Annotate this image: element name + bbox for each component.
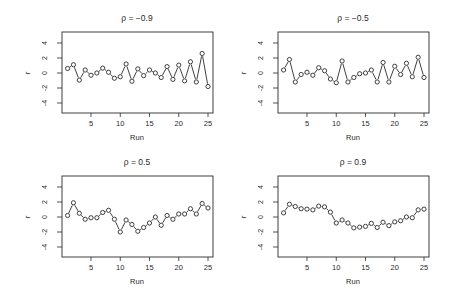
y-axis-label: r — [239, 71, 248, 74]
x-tick-label: 5 — [89, 119, 93, 128]
series-line-segment — [163, 218, 166, 223]
data-point-marker — [165, 213, 169, 217]
series-line-segment — [343, 64, 347, 80]
x-tick-label: 15 — [361, 119, 369, 128]
series-line-segment — [315, 70, 317, 73]
x-tick-label: 15 — [361, 263, 369, 272]
data-point-marker — [130, 222, 134, 226]
x-tick-label: 10 — [116, 263, 124, 272]
data-point-marker — [381, 220, 385, 224]
y-tick-label: -4 — [41, 100, 48, 106]
series-line-segment — [157, 219, 160, 223]
y-tick-label: -2 — [257, 85, 264, 91]
series-line-segment — [81, 215, 83, 217]
data-point-marker — [159, 223, 163, 227]
data-point-marker — [77, 78, 81, 82]
data-point-marker — [183, 79, 187, 83]
series-line-segment — [151, 219, 153, 221]
series-line-segment — [285, 62, 288, 68]
y-axis-label: r — [239, 215, 248, 218]
series-line-segment — [390, 69, 394, 80]
chart-title: ρ = −0.9 — [121, 13, 153, 23]
y-tick-label: -4 — [257, 100, 264, 106]
data-point-marker — [328, 210, 332, 214]
data-point-marker — [147, 221, 151, 225]
x-tick-label: 25 — [420, 263, 428, 272]
data-point-marker — [416, 208, 420, 212]
data-point-marker — [293, 80, 297, 84]
data-point-marker — [299, 72, 303, 76]
plot-frame — [62, 176, 213, 257]
y-tick-label: 2 — [257, 200, 264, 204]
data-point-marker — [340, 59, 344, 63]
series-line-segment — [408, 66, 412, 74]
x-tick-label: 10 — [116, 119, 124, 128]
series-line-segment — [384, 65, 388, 79]
panel-rho-neg-0-5: ρ = −0.5420-2-4r510152025Run — [239, 13, 429, 142]
data-point-marker — [393, 64, 397, 68]
figure: ρ = −0.9420-2-4r510152025Run ρ = −0.5420… — [0, 0, 451, 297]
series-line-segment — [379, 224, 381, 226]
data-point-marker — [369, 221, 373, 225]
data-point-marker — [153, 71, 157, 75]
series-line-segment — [140, 71, 142, 74]
series-line-segment — [174, 68, 178, 77]
data-point-marker — [404, 61, 408, 65]
y-tick-label: 0 — [41, 215, 48, 219]
x-axis-label: Run — [130, 277, 144, 286]
series-line-segment — [391, 223, 392, 224]
series-line-segment — [133, 71, 136, 78]
series-line-segment — [413, 60, 417, 74]
x-tick-label: 15 — [145, 263, 153, 272]
x-tick-label: 20 — [391, 263, 399, 272]
data-point-marker — [387, 80, 391, 84]
y-tick-label: 2 — [41, 56, 48, 60]
x-tick-label: 5 — [305, 263, 309, 272]
series-line-segment — [374, 225, 375, 226]
data-point-marker — [118, 230, 122, 234]
data-point-marker — [206, 206, 210, 210]
series-line-segment — [204, 205, 205, 206]
y-tick-label: 2 — [41, 200, 48, 204]
series-line-segment — [111, 74, 113, 76]
y-tick-label: 4 — [257, 41, 264, 45]
data-point-marker — [95, 71, 99, 75]
data-point-marker — [363, 224, 367, 228]
series-line-segment — [356, 75, 357, 76]
series-line-segment — [168, 69, 172, 77]
data-point-marker — [177, 212, 181, 216]
data-point-marker — [153, 215, 157, 219]
series-line-segment — [127, 67, 131, 79]
data-point-marker — [305, 70, 309, 74]
data-point-marker — [422, 207, 426, 211]
data-point-marker — [124, 62, 128, 66]
series-line-segment — [327, 209, 329, 211]
x-tick-label: 15 — [145, 119, 153, 128]
chart-title: ρ = −0.5 — [337, 13, 369, 23]
data-point-marker — [106, 70, 110, 74]
data-point-marker — [422, 75, 426, 79]
data-point-marker — [112, 76, 116, 80]
x-tick-label: 25 — [204, 119, 212, 128]
series-line-segment — [99, 70, 101, 71]
data-point-marker — [183, 212, 187, 216]
data-point-marker — [287, 202, 291, 206]
data-point-marker — [352, 75, 356, 79]
data-point-marker — [387, 224, 391, 228]
chart-title: ρ = 0.5 — [124, 157, 151, 167]
plot-frame — [278, 176, 429, 257]
series-line-segment — [99, 214, 101, 216]
series-line-segment — [396, 69, 399, 73]
data-point-marker — [95, 216, 99, 220]
x-tick-label: 10 — [332, 263, 340, 272]
data-point-marker — [381, 60, 385, 64]
data-point-marker — [66, 66, 70, 70]
y-axis-label: r — [23, 215, 32, 218]
series-line-segment — [105, 70, 106, 71]
data-point-marker — [159, 75, 163, 79]
data-point-marker — [334, 81, 338, 85]
data-point-marker — [171, 217, 175, 221]
series-line-segment — [402, 66, 405, 72]
series-line-segment — [350, 225, 352, 226]
data-point-marker — [66, 213, 70, 217]
